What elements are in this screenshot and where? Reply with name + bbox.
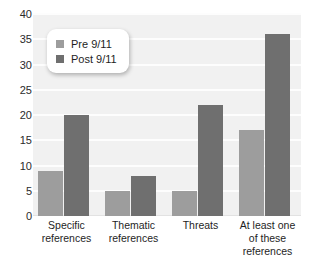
y-axis-tick-label: 40 (2, 9, 32, 20)
x-axis-category-label-line: Threats (167, 219, 234, 232)
bar-pre[interactable] (38, 171, 63, 216)
bar-post[interactable] (64, 115, 89, 216)
legend: Pre 9/11Post 9/11 (47, 29, 129, 73)
legend-swatch-icon (56, 40, 64, 48)
x-axis-category-label-line: references (234, 245, 301, 258)
x-axis-category-label: Thematicreferences (100, 219, 167, 245)
y-axis: 0510152025303540 (0, 0, 32, 276)
x-axis-category-label-line: Thematic (100, 219, 167, 232)
legend-swatch-icon (56, 55, 64, 63)
x-axis-category-label-line: of these (234, 232, 301, 245)
x-axis-category-label: Specificreferences (33, 219, 100, 245)
legend-item[interactable]: Post 9/11 (56, 51, 117, 66)
bar-post[interactable] (131, 176, 156, 216)
y-axis-tick-label: 30 (2, 59, 32, 70)
x-axis-category-label-line: At least one (234, 219, 301, 232)
y-axis-tick-label: 25 (2, 84, 32, 95)
y-axis-tick-label: 10 (2, 160, 32, 171)
bar-pre[interactable] (172, 191, 197, 216)
bar-pre[interactable] (105, 191, 130, 216)
x-axis: SpecificreferencesThematicreferencesThre… (33, 219, 301, 276)
legend-item-label: Post 9/11 (71, 53, 117, 65)
legend-item[interactable]: Pre 9/11 (56, 36, 117, 51)
x-axis-category-label-line: Specific (33, 219, 100, 232)
bar-chart: 0510152025303540 Pre 9/11Post 9/11 Speci… (0, 0, 312, 276)
bar-pre[interactable] (239, 130, 264, 216)
bar-post[interactable] (265, 34, 290, 216)
x-axis-category-label: At least oneof thesereferences (234, 219, 301, 258)
x-axis-category-label: Threats (167, 219, 234, 232)
y-axis-tick-label: 35 (2, 34, 32, 45)
bar-group (234, 14, 301, 216)
y-axis-tick-label: 5 (2, 185, 32, 196)
y-axis-tick-label: 20 (2, 110, 32, 121)
x-axis-category-label-line: references (100, 232, 167, 245)
y-axis-tick-label: 0 (2, 211, 32, 222)
bar-group (167, 14, 234, 216)
y-axis-tick-label: 15 (2, 135, 32, 146)
legend-item-label: Pre 9/11 (71, 38, 112, 50)
bar-post[interactable] (198, 105, 223, 216)
x-axis-category-label-line: references (33, 232, 100, 245)
